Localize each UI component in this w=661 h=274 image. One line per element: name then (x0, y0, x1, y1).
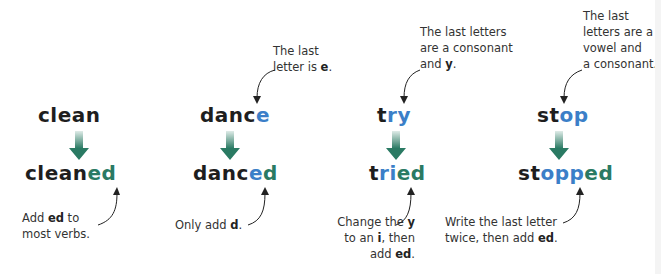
down-arrow-icon (219, 131, 241, 161)
word-segment: t (369, 161, 379, 185)
rule-note-vowel-and-consonant: The lastletters are avowel anda consonan… (583, 8, 657, 72)
word-segment: danc (193, 161, 249, 185)
rule-note-add-ed: Add ed tomost verbs. (22, 210, 100, 242)
word-segment: danc (200, 103, 256, 127)
note-line: twice, then add ed. (445, 230, 558, 246)
note-line: most verbs. (22, 226, 100, 242)
rule-note-write-last-letter-twice: Write the last lettertwice, then add ed. (445, 214, 558, 246)
word-segment: e (249, 161, 263, 185)
word-segment: st (518, 161, 540, 185)
page-edge (655, 0, 661, 274)
word-segment: e (256, 103, 270, 127)
note-line: The last (273, 43, 332, 59)
word-segment: opp (540, 161, 584, 185)
result-word-cleaned: cleaned (25, 161, 116, 185)
pointer-arrow-icon (95, 185, 125, 230)
note-line: vowel and (583, 40, 657, 56)
word-segment: st (537, 103, 559, 127)
down-arrow-icon (68, 131, 90, 161)
word-segment: ed (397, 161, 426, 185)
result-word-danced: danced (193, 161, 278, 185)
rule-note-last-letter-e: The lastletter is e. (273, 43, 332, 75)
word-segment: ed (584, 161, 613, 185)
word-segment: d (263, 161, 278, 185)
note-line: to an i, then (310, 230, 415, 246)
word-segment: op (559, 103, 588, 127)
word-segment: ed (88, 161, 117, 185)
base-word-clean: clean (38, 103, 101, 127)
pointer-arrow-icon (245, 68, 280, 108)
down-arrow-icon (385, 131, 407, 161)
result-word-stopped: stopped (518, 161, 613, 185)
pointer-arrow-icon (393, 185, 423, 230)
base-word-stop: stop (537, 103, 589, 127)
note-line: Write the last letter (445, 214, 558, 230)
rule-note-consonant-and-y: The last lettersare a consonantand y. (420, 24, 513, 72)
base-word-dance: dance (200, 103, 270, 127)
word-segment: t (377, 103, 387, 127)
note-line: and y. (420, 56, 513, 72)
note-line: add ed. (310, 246, 415, 262)
note-line: letter is e. (273, 59, 332, 75)
pointer-arrow-icon (395, 68, 430, 108)
word-segment: ri (379, 161, 397, 185)
rule-note-only-add-d: Only add d. (175, 217, 242, 233)
base-word-try: try (377, 103, 411, 127)
pointer-arrow-icon (560, 185, 590, 230)
pointer-arrow-icon (552, 68, 587, 108)
word-segment: clean (38, 103, 101, 127)
pointer-arrow-icon (245, 185, 275, 230)
word-segment: clean (25, 161, 88, 185)
note-line: The last (583, 8, 657, 24)
note-line: The last letters (420, 24, 513, 40)
note-line: Add ed to (22, 210, 100, 226)
word-segment: ry (387, 103, 411, 127)
note-line: Only add d. (175, 217, 242, 233)
note-line: are a consonant (420, 40, 513, 56)
down-arrow-icon (548, 131, 570, 161)
note-line: a consonant. (583, 56, 657, 72)
note-line: letters are a (583, 24, 657, 40)
result-word-tried: tried (369, 161, 426, 185)
